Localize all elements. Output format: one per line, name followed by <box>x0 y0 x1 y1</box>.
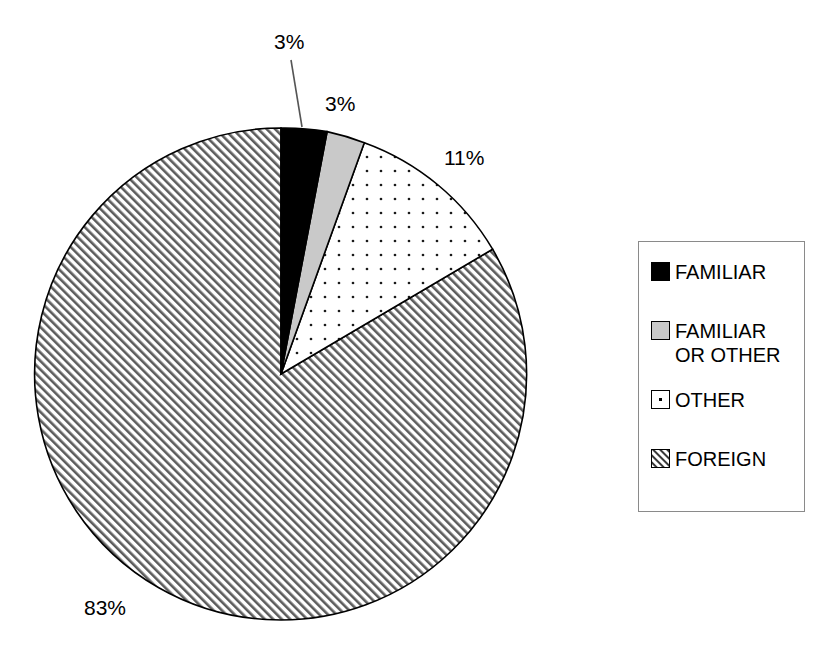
solid-black-swatch-icon <box>651 262 670 281</box>
legend-item-other[interactable]: OTHER <box>651 388 745 412</box>
slice-label-foreign: 83% <box>84 596 126 620</box>
legend-item-familiar[interactable]: FAMILIAR <box>651 260 766 284</box>
slice-label-familiar-or-other: 3% <box>325 92 355 116</box>
legend-label-foreign: FOREIGN <box>675 447 766 471</box>
legend-label-other: OTHER <box>675 388 745 412</box>
legend-label-familiar: FAMILIAR <box>675 260 766 284</box>
slice-label-familiar: 3% <box>274 30 304 54</box>
leader-line-familiar <box>291 60 302 127</box>
slice-label-other: 11% <box>444 146 484 170</box>
legend-item-foreign[interactable]: FOREIGN <box>651 447 766 471</box>
dotted-fill-swatch-icon <box>651 390 670 409</box>
legend-item-familiar-or-other[interactable]: FAMILIAR OR OTHER <box>651 319 781 367</box>
gray-fill-swatch-icon <box>651 321 670 340</box>
chart-page: 3% 3% 11% 83% FAMILIAR FAMILIAR OR OTHER… <box>0 0 835 662</box>
hatch-fill-swatch-icon <box>651 449 670 468</box>
legend-label-familiar-or-other: FAMILIAR OR OTHER <box>675 319 781 367</box>
chart-legend: FAMILIAR FAMILIAR OR OTHER OTHER FOREIGN <box>638 241 805 512</box>
